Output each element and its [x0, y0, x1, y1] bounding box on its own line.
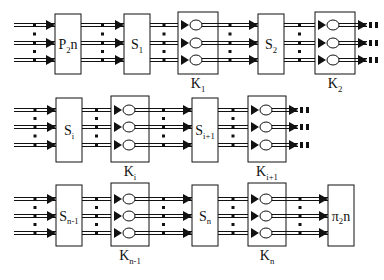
xor-node-icon: [327, 55, 339, 65]
xor-node-icon: [123, 122, 135, 132]
xor-node-icon: [190, 20, 202, 30]
xor-node-icon: [123, 194, 135, 204]
xor-node-icon: [123, 211, 135, 221]
spn-diagram: P2nS1K1S2K2SiKiSi+1Ki+1Sn-1Kn-1SnKnπ2n: [0, 0, 384, 280]
xor-node-icon: [123, 228, 135, 238]
xor-node-icon: [260, 228, 272, 238]
kn-label: Kn: [260, 248, 275, 266]
xor-node-icon: [260, 140, 272, 150]
xor-node-icon: [327, 20, 339, 30]
k2-label: K2: [328, 76, 342, 94]
xor-node-icon: [123, 105, 135, 115]
ki1-label: Ki+1: [256, 164, 278, 182]
xor-node-icon: [260, 211, 272, 221]
xor-node-icon: [260, 194, 272, 204]
xor-node-icon: [123, 140, 135, 150]
xor-node-icon: [260, 122, 272, 132]
xor-node-icon: [190, 38, 202, 48]
ki-label: Ki: [124, 164, 137, 182]
kn1-label: Kn-1: [119, 248, 141, 266]
xor-node-icon: [190, 55, 202, 65]
k1-label: K1: [191, 76, 205, 94]
xor-node-icon: [327, 38, 339, 48]
xor-node-icon: [260, 105, 272, 115]
